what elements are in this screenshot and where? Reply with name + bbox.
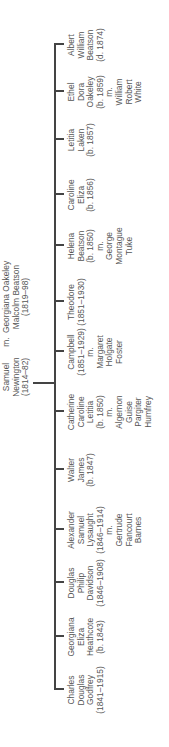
sibling-bar	[54, 44, 56, 690]
spouse-name-line: Barnes	[134, 500, 144, 560]
child-node: CharlesDouglasGodfrey(1841–1915)	[67, 660, 105, 720]
child-node: WalterJames(b. 1847)	[67, 440, 96, 500]
child-drop-line	[54, 636, 64, 638]
child-drop-line	[54, 245, 64, 247]
child-drop-line	[54, 301, 64, 303]
child-drop-line	[54, 529, 64, 531]
mother-node: Georgiana Oakeley Malcolm Beatson (1819–…	[2, 252, 31, 342]
mother-dates: (1819–98)	[21, 252, 31, 342]
child-name-line: (1846–1908)	[96, 553, 106, 613]
child-name-line: (1851–1930)	[77, 272, 87, 332]
spouse-name-line: Humfrey	[144, 382, 154, 442]
child-name-line: (b. 1843)	[96, 607, 106, 667]
child-node: AlexanderSamuelLysaught(1846–1914)m.Gert…	[67, 500, 144, 560]
father-dates: (1814–82)	[21, 342, 31, 412]
child-node: GeorgianaElizaHeathcote(b. 1843)	[67, 607, 105, 667]
child-drop-line	[54, 469, 64, 471]
child-drop-line	[54, 689, 64, 691]
family-tree: Samuel Newington (1814–82) m. Georgiana …	[0, 0, 169, 747]
spouse-name-line: White	[134, 62, 144, 122]
spouse-name-line: Tuke	[125, 216, 135, 276]
child-drop-line	[54, 194, 64, 196]
child-node: CatherineCarolineLetitia(b. 1850)m.Alger…	[67, 382, 153, 442]
child-node: CarolineEliza(b. 1856)	[67, 165, 96, 225]
child-node: DouglasPhilipDavidson(1846–1908)	[67, 553, 105, 613]
child-drop-line	[54, 351, 64, 353]
child-name-line: (1841–1915)	[96, 660, 106, 720]
child-node: AlbertWilliamBeatson(d. 1874)	[67, 15, 105, 75]
parent-descent-line	[33, 383, 55, 385]
child-node: Theodore(1851–1930)	[67, 272, 86, 332]
child-name-line: (d. 1874)	[96, 15, 106, 75]
child-name-line: (b. 1847)	[86, 440, 96, 500]
spouse-name-line: Foster	[115, 322, 125, 382]
father-node: Samuel Newington (1814–82)	[2, 342, 31, 412]
child-drop-line	[54, 139, 64, 141]
child-drop-line	[54, 582, 64, 584]
child-drop-line	[54, 91, 64, 93]
child-drop-line	[54, 411, 64, 413]
child-node: HelenaBeatson(b. 1850)m.GeorgeMontagueTu…	[67, 216, 134, 276]
child-name-line: (b. 1856)	[86, 165, 96, 225]
child-drop-line	[54, 44, 64, 46]
